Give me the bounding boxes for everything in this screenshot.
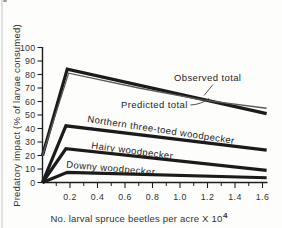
y-tick-label: 30 [25,137,35,147]
scan-smudge-artifact [3,0,7,2]
y-tick-label: 100 [20,43,36,53]
y-tick-label: 0 [30,178,35,188]
x-tick-label: 0.6 [118,192,131,202]
x-tick-label: 1.6 [256,192,269,202]
y-tick-label: 50 [25,110,35,120]
hairy-woodpecker-label: Hairy woodpecker [91,140,174,162]
observed-total-label-leader [204,85,213,96]
y-tick-label: 40 [25,124,35,134]
y-tick-label: 10 [25,164,35,174]
y-axis-label: Predatory impact (% of larvae consumed) [11,24,22,207]
y-tick-label: 80 [25,70,35,80]
figure-scan: 01020304050607080901000.20.40.60.81.01.2… [0,0,282,228]
y-tick-label: 60 [25,97,35,107]
x-axis-label: No. larval spruce beetles per acre X 104 [50,211,228,224]
x-tick-label: 1.2 [201,192,214,202]
y-tick-label: 70 [25,83,35,93]
x-tick-label: 0.4 [91,192,104,202]
y-tick-label: 20 [25,151,35,161]
observed-total-label: Observed total [174,72,241,83]
x-tick-label: 1.4 [228,192,241,202]
y-tick-label: 90 [25,56,35,66]
predatory-impact-line-chart: 01020304050607080901000.20.40.60.81.01.2… [0,0,282,228]
x-tick-label: 0.8 [146,192,159,202]
x-tick-label: 1.0 [173,192,186,202]
x-axis-label-exponent: 4 [223,211,228,220]
page-edge-artifact [1,0,3,228]
x-tick-label: 0.2 [63,192,76,202]
predicted-total-label: Predicted total [121,99,188,110]
